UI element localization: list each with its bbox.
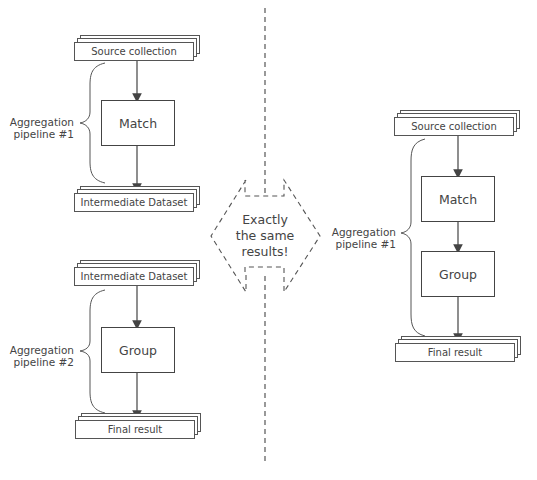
right-source-collection-label: Source collection [394,117,514,136]
final-result-stack: Final result [75,420,195,439]
equivalence-text-line3: results! [220,244,310,260]
intermediate-dataset-input-stack: Intermediate Dataset [74,267,194,286]
right-final-result-label: Final result [395,343,515,362]
pipeline-1-label: Aggregation pipeline #1 [0,116,74,140]
final-result-label: Final result [75,420,195,439]
right-group-stage-box: Group [421,251,495,297]
pipeline-2-label-line2: pipeline #2 [0,356,74,368]
diagram-canvas: Source collection Match Intermediate Dat… [0,0,537,480]
brace-right-pipeline [401,139,425,336]
right-match-stage-box: Match [421,176,495,222]
equivalence-text-line1: Exactly [220,212,310,228]
intermediate-dataset-label: Intermediate Dataset [74,193,194,212]
pipeline-2-label: Aggregation pipeline #2 [0,344,74,368]
source-collection-stack: Source collection [74,42,194,61]
group-stage-box: Group [101,327,175,373]
pipeline-2-label-line1: Aggregation [0,344,74,356]
pipeline-1-label-line2: pipeline #1 [0,128,74,140]
right-pipeline-label-line1: Aggregation [306,226,396,238]
intermediate-dataset-input-label: Intermediate Dataset [74,267,194,286]
intermediate-dataset-output-stack: Intermediate Dataset [74,193,194,212]
equivalence-text-line2: the same [220,228,310,244]
equivalence-text: Exactly the same results! [220,212,310,260]
source-collection-label: Source collection [74,42,194,61]
right-final-result-stack: Final result [395,343,515,362]
right-pipeline-label: Aggregation pipeline #1 [306,226,396,250]
match-stage-box: Match [101,100,175,146]
right-source-collection-stack: Source collection [394,117,514,136]
pipeline-1-label-line1: Aggregation [0,116,74,128]
right-pipeline-label-line2: pipeline #1 [306,238,396,250]
